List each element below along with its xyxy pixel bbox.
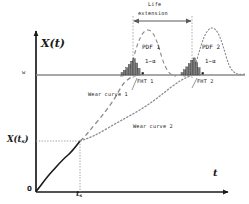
pdf2-label: PDF 2 — [202, 44, 220, 50]
threshold-label-w: w — [22, 70, 25, 76]
fht2-histogram — [181, 58, 204, 75]
ts-tick-label: ts — [76, 190, 82, 199]
life-extension-label-line2: extension — [138, 11, 168, 16]
origin-label: 0 — [27, 186, 32, 193]
fht1-histogram — [121, 59, 144, 75]
x-axis-label: t — [213, 168, 218, 178]
y-axis-label: X(t) — [41, 38, 65, 49]
common-degradation-path — [36, 141, 80, 192]
life-extension-label-line1: Life — [148, 2, 161, 7]
fht1-label: FHT 1 — [137, 79, 154, 84]
figure-canvas — [0, 0, 249, 204]
pdf1-label: PDF 1 — [142, 44, 160, 50]
confidence-label-1: 1−α — [145, 59, 156, 65]
confidence-label-2: 1−α — [205, 59, 216, 65]
wear-curve-1-label: Wear curve 1 — [88, 92, 128, 97]
wear-curve-2-label: Wear curve 2 — [133, 124, 173, 129]
ts-tick-label-sub: s — [79, 193, 82, 198]
axis-group — [36, 31, 228, 192]
wear-curve-2 — [80, 75, 194, 141]
fht2-label: FHT 2 — [197, 79, 214, 84]
degradation-wear-curve-figure: X(t) t 0 w X(ts) ts Life extension PDF 1… — [0, 0, 249, 204]
xts-tick-label-close: ) — [25, 134, 29, 144]
wear-curve-1 — [80, 75, 138, 141]
xts-tick-label-main: X(t — [7, 134, 22, 144]
xts-tick-label: X(ts) — [7, 135, 29, 144]
